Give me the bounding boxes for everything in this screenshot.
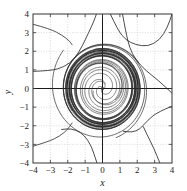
x-tick-label: 4	[170, 165, 175, 175]
y-tick-label: 2	[25, 46, 30, 56]
x-axis-title-text: x	[99, 177, 105, 188]
plot-area: −4−3−2−101234 −4−3−2−101234 x y	[0, 0, 187, 191]
y-tick-label: 4	[25, 9, 30, 19]
x-tick-label: 2	[135, 165, 140, 175]
x-tick-label: 3	[152, 165, 157, 175]
y-axis-title: y	[2, 89, 13, 95]
y-tick-label: −1	[19, 102, 29, 112]
y-axis-title-text: y	[2, 89, 13, 95]
x-tick-label: −4	[28, 165, 38, 175]
y-tick-label: 3	[25, 28, 30, 38]
x-tick-label: −3	[46, 165, 56, 175]
x-tick-label: 1	[118, 165, 123, 175]
y-tick-labels: −4−3−2−101234	[19, 9, 29, 168]
x-tick-label: −2	[63, 165, 73, 175]
x-tick-labels: −4−3−2−101234	[28, 165, 175, 175]
x-axis-title: x	[99, 177, 105, 188]
x-tick-label: 0	[100, 165, 105, 175]
y-tick-label: 1	[25, 65, 30, 75]
x-tick-label: −1	[80, 165, 90, 175]
phase-portrait-svg: −4−3−2−101234 −4−3−2−101234 x y	[0, 0, 187, 191]
equilibrium-point	[101, 87, 104, 90]
y-tick-label: 0	[25, 84, 30, 94]
phase-portrait-figure: −4−3−2−101234 −4−3−2−101234 x y	[0, 0, 187, 191]
y-tick-label: −4	[19, 158, 29, 168]
y-tick-label: −2	[19, 121, 29, 131]
y-tick-label: −3	[19, 140, 29, 150]
